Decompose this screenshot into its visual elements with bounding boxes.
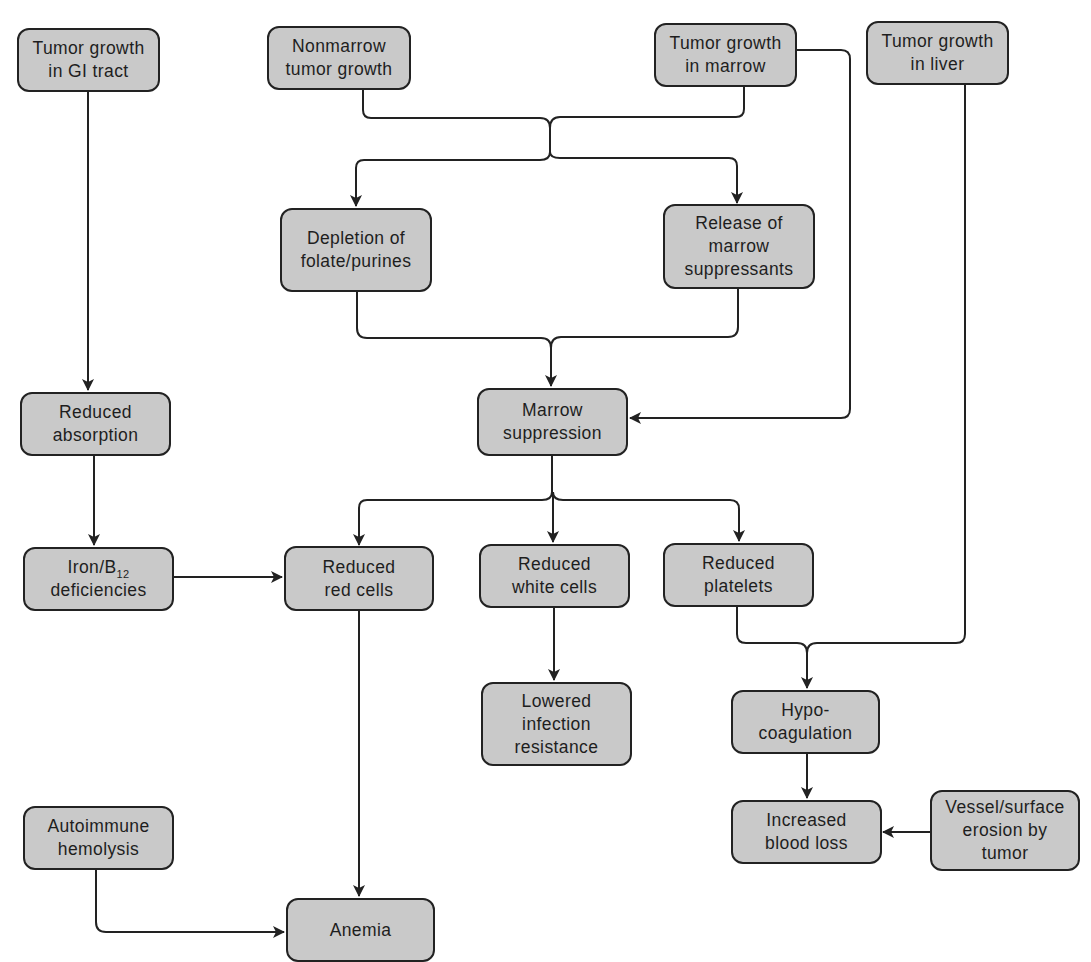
node-label: Lowered infection resistance [515, 690, 599, 759]
edge-nonmarrow-merge [363, 89, 550, 128]
node-label: Tumor growth in liver [881, 30, 993, 76]
node-nonmarrow-tumor-growth: Nonmarrow tumor growth [267, 26, 411, 90]
node-label: Depletion of folate/purines [301, 227, 412, 273]
edge-platelets-merge [737, 606, 807, 653]
node-autoimmune-hemolysis: Autoimmune hemolysis [23, 806, 174, 870]
node-marrow-suppression: Marrow suppression [477, 388, 628, 456]
node-label-text: Iron/B [67, 557, 116, 577]
node-tumor-growth-liver: Tumor growth in liver [866, 21, 1009, 85]
edge-release-merge [551, 288, 738, 348]
node-release-marrow-suppressants: Release of marrow suppressants [663, 204, 815, 289]
node-hypocoagulation: Hypo- coagulation [731, 690, 880, 754]
node-tumor-growth-marrow: Tumor growth in marrow [654, 23, 797, 87]
node-vessel-surface-erosion: Vessel/surface erosion by tumor [930, 790, 1080, 871]
node-label: Reduced white cells [512, 553, 597, 599]
edge-to-redcells [359, 492, 552, 545]
node-reduced-red-cells: Reduced red cells [284, 546, 434, 611]
node-iron-b12-deficiencies: Iron/B12 deficiencies [23, 547, 174, 611]
node-increased-blood-loss: Increased blood loss [731, 800, 882, 864]
edge-autoimmune-to-anemia [96, 869, 284, 932]
node-label: Anemia [330, 919, 392, 942]
edge-marrowtumor-merge [550, 86, 744, 128]
node-depletion-folate-purines: Depletion of folate/purines [280, 208, 432, 292]
node-label: Marrow suppression [503, 399, 602, 445]
edge-split-to-depletion [356, 152, 550, 206]
node-reduced-white-cells: Reduced white cells [479, 544, 630, 608]
edge-split-to-release [550, 152, 737, 203]
node-label: Reduced red cells [323, 556, 396, 602]
node-label: Tumor growth in marrow [669, 32, 781, 78]
node-tumor-growth-gi-tract: Tumor growth in GI tract [17, 28, 160, 92]
edge-liver-merge [807, 84, 965, 653]
node-label: Reduced platelets [702, 552, 775, 598]
subscript-12: 12 [117, 568, 130, 580]
node-label-line2: deficiencies [50, 579, 146, 602]
node-label: Tumor growth in GI tract [32, 37, 144, 83]
node-label: Hypo- coagulation [759, 699, 853, 745]
node-label: Release of marrow suppressants [685, 212, 794, 281]
edge-to-platelets [553, 492, 739, 541]
node-label: Autoimmune hemolysis [47, 815, 149, 861]
node-label: Vessel/surface erosion by tumor [945, 796, 1064, 865]
node-reduced-platelets: Reduced platelets [663, 543, 814, 607]
node-reduced-absorption: Reduced absorption [20, 392, 171, 456]
node-label-line1: Iron/B12 [67, 556, 129, 579]
node-label: Reduced absorption [53, 401, 139, 447]
edge-depletion-merge [357, 291, 551, 348]
node-label: Increased blood loss [765, 809, 848, 855]
node-lowered-infection-resistance: Lowered infection resistance [481, 682, 632, 766]
node-anemia: Anemia [286, 898, 435, 962]
node-label: Nonmarrow tumor growth [286, 35, 393, 81]
